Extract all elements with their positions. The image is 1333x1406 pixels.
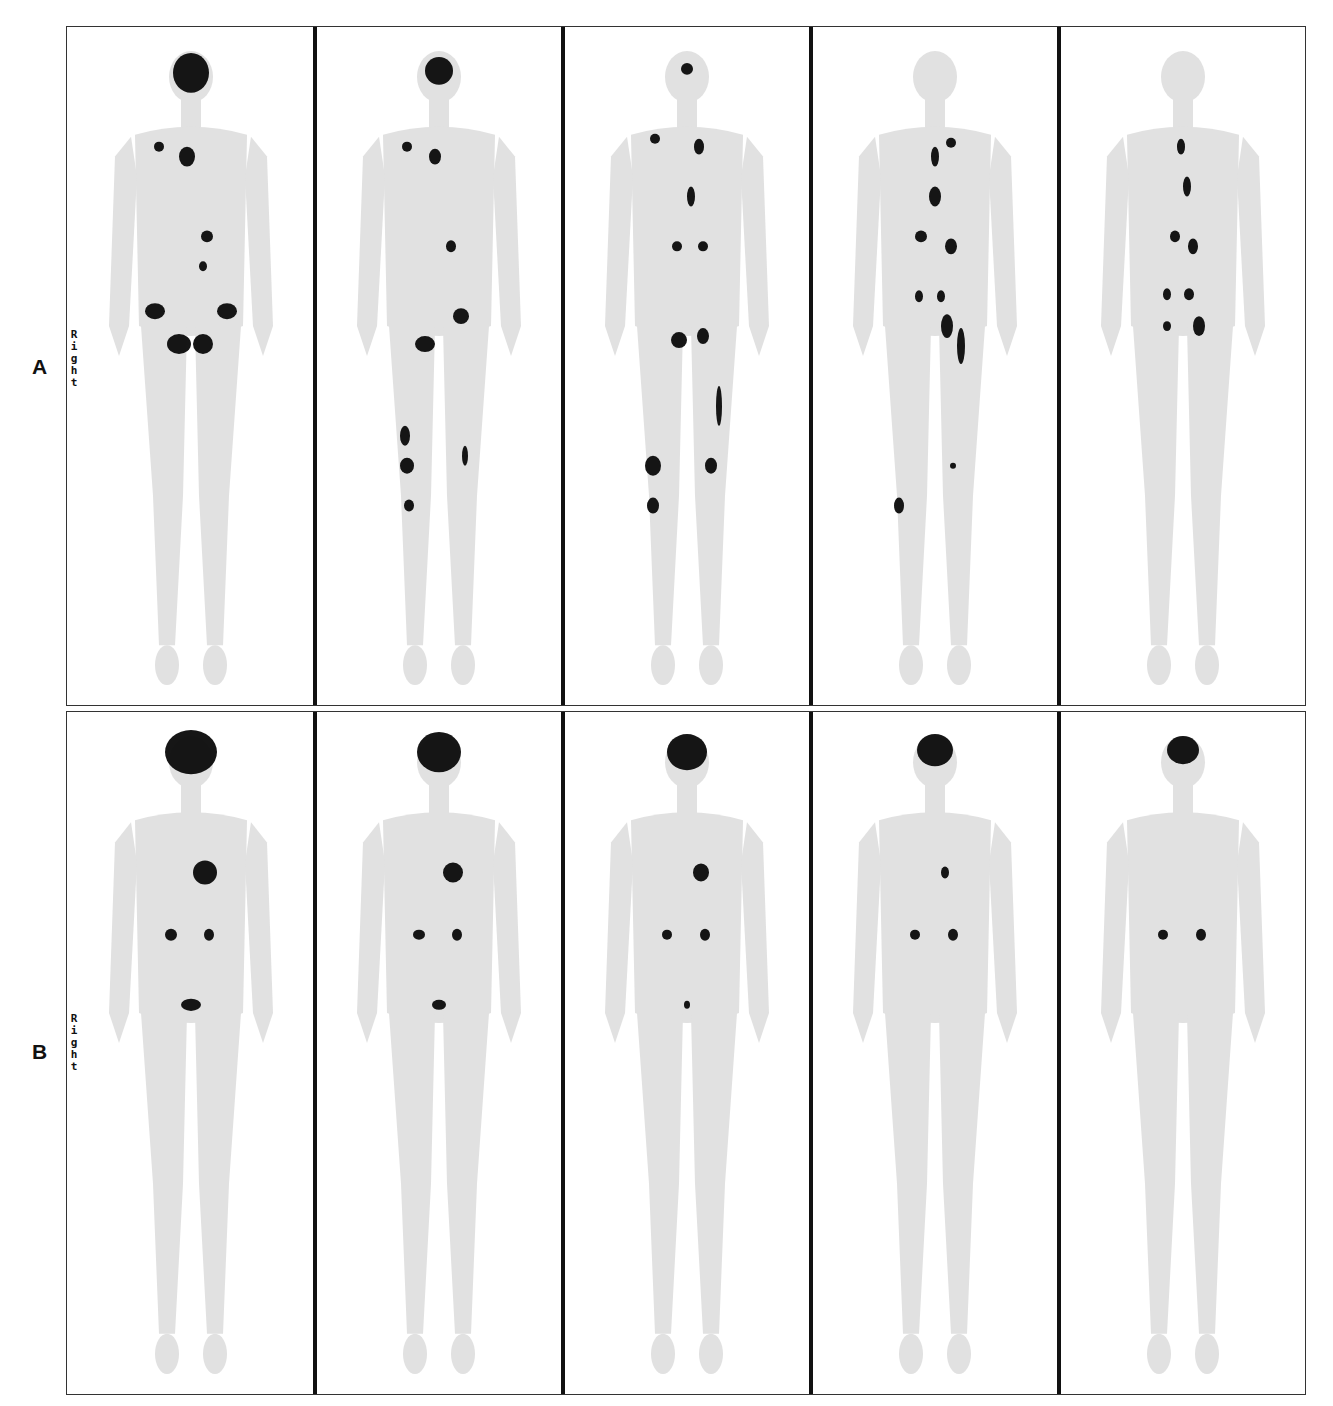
uptake-spot <box>894 498 904 514</box>
uptake-spot <box>1167 736 1199 764</box>
uptake-spot <box>165 929 177 941</box>
uptake-spot <box>671 332 687 348</box>
scan-panel-a-5 <box>1059 27 1307 705</box>
uptake-spot <box>716 386 722 426</box>
scan-row-a <box>66 26 1306 706</box>
scan-panel-a-3 <box>563 27 811 705</box>
scan-panel-b-2 <box>315 712 563 1394</box>
uptake-spot <box>684 1001 690 1009</box>
scan-row-b <box>66 711 1306 1395</box>
body-scan-image <box>315 27 563 705</box>
uptake-spot <box>204 929 214 941</box>
scan-panel-a-4 <box>811 27 1059 705</box>
uptake-spot <box>462 446 468 466</box>
panel-divider <box>561 712 565 1394</box>
uptake-spot <box>667 734 707 770</box>
uptake-spot <box>700 929 710 941</box>
uptake-spot <box>1183 177 1191 197</box>
uptake-spot <box>1170 230 1180 242</box>
uptake-spot <box>915 290 923 302</box>
uptake-spot <box>1188 238 1198 254</box>
uptake-spot <box>165 730 217 774</box>
uptake-spot <box>400 426 410 446</box>
uptake-spot <box>705 458 717 474</box>
body-scan-image <box>67 27 315 705</box>
uptake-spot <box>429 149 441 165</box>
uptake-spot <box>948 929 958 941</box>
uptake-spot <box>647 498 659 514</box>
scan-panel-b-5 <box>1059 712 1307 1394</box>
uptake-spot <box>1177 139 1185 155</box>
uptake-spot <box>432 1000 446 1010</box>
body-scan-image <box>67 712 315 1394</box>
uptake-spot <box>1163 321 1171 331</box>
uptake-spot <box>945 238 957 254</box>
uptake-spot <box>645 456 661 476</box>
uptake-spot <box>446 240 456 252</box>
uptake-spot <box>404 500 414 512</box>
uptake-spot <box>917 734 953 766</box>
uptake-spot <box>937 290 945 302</box>
panel-divider <box>1057 712 1061 1394</box>
uptake-spot <box>941 866 949 878</box>
uptake-spot <box>698 241 708 251</box>
uptake-spot <box>957 328 965 364</box>
uptake-spot <box>173 53 209 93</box>
panel-divider <box>1057 27 1061 705</box>
uptake-spot <box>941 314 953 338</box>
uptake-spot <box>1196 929 1206 941</box>
uptake-spot <box>167 334 191 354</box>
body-scan-image <box>1059 27 1307 705</box>
uptake-spot <box>413 930 425 940</box>
orientation-label-a: Right <box>68 329 80 389</box>
uptake-spot <box>217 303 237 319</box>
uptake-spot <box>681 63 693 75</box>
uptake-spot <box>425 57 453 85</box>
scan-panel-a-2 <box>315 27 563 705</box>
uptake-spot <box>402 142 412 152</box>
uptake-spot <box>662 930 672 940</box>
orientation-label-b: Right <box>68 1013 80 1073</box>
uptake-spot <box>950 463 956 469</box>
uptake-spot <box>1158 930 1168 940</box>
row-label-b: B <box>32 1040 47 1064</box>
uptake-spot <box>929 187 941 207</box>
uptake-spot <box>415 336 435 352</box>
uptake-spot <box>915 230 927 242</box>
uptake-spot <box>453 308 469 324</box>
scan-panel-b-4 <box>811 712 1059 1394</box>
uptake-spot <box>179 147 195 167</box>
uptake-spot <box>946 138 956 148</box>
uptake-spot <box>400 458 414 474</box>
uptake-spot <box>693 863 709 881</box>
uptake-spot <box>672 241 682 251</box>
row-label-a: A <box>32 355 47 379</box>
uptake-spot <box>145 303 165 319</box>
uptake-spot <box>154 142 164 152</box>
body-scan-image <box>811 712 1059 1394</box>
uptake-spot <box>1193 316 1205 336</box>
uptake-spot <box>697 328 709 344</box>
uptake-spot <box>931 147 939 167</box>
uptake-spot <box>199 261 207 271</box>
panel-divider <box>313 712 317 1394</box>
uptake-spot <box>193 334 213 354</box>
uptake-spot <box>650 134 660 144</box>
panel-divider <box>809 27 813 705</box>
panel-divider <box>809 712 813 1394</box>
panel-divider <box>561 27 565 705</box>
panel-divider <box>313 27 317 705</box>
uptake-spot <box>201 230 213 242</box>
scan-panel-b-3 <box>563 712 811 1394</box>
body-scan-image <box>563 27 811 705</box>
uptake-spot <box>910 930 920 940</box>
uptake-spot <box>1163 288 1171 300</box>
uptake-spot <box>687 187 695 207</box>
body-scan-image <box>1059 712 1307 1394</box>
body-scan-image <box>315 712 563 1394</box>
uptake-spot <box>443 862 463 882</box>
body-scan-image <box>563 712 811 1394</box>
uptake-spot <box>452 929 462 941</box>
body-scan-image <box>811 27 1059 705</box>
uptake-spot <box>694 139 704 155</box>
